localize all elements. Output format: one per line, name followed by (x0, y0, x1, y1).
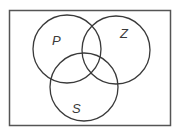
set-p-label: P (52, 33, 61, 48)
venn-diagram: P Z S (0, 0, 181, 132)
set-s-label: S (72, 101, 81, 116)
set-z-label: Z (119, 26, 129, 41)
